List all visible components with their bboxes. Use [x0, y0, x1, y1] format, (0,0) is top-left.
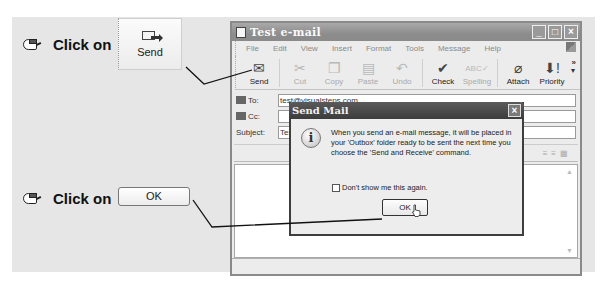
maximize-button[interactable]: □ — [548, 25, 562, 39]
send-callout-label: Send — [137, 46, 163, 58]
hand-cursor-icon — [412, 204, 421, 217]
menu-view[interactable]: View — [301, 44, 318, 53]
menu-format[interactable]: Format — [366, 44, 391, 53]
cc-label: Cc: — [248, 112, 278, 121]
priority-dropdown-arrow[interactable]: ▾ — [571, 66, 575, 75]
menu-file[interactable]: File — [246, 44, 259, 53]
dialog-title: Send Mail — [292, 105, 348, 116]
ok-callout-button: OK — [118, 187, 190, 206]
minimize-button[interactable]: _ — [532, 25, 546, 39]
mouse-icon — [23, 193, 41, 204]
send-mail-dialog: Send Mail × i When you send an e-mail me… — [289, 102, 524, 236]
checkbox-box[interactable] — [332, 184, 340, 192]
dialog-message: When you send an e-mail message, it will… — [331, 128, 521, 158]
toolbar: ✉ Send ✂ Cut ❐ Copy ▤ Paste ↶ Undo ✔ Che… — [235, 56, 580, 90]
menu-help[interactable]: Help — [484, 44, 500, 53]
scroll-down-arrow[interactable]: ▼ — [566, 247, 573, 254]
info-icon: i — [301, 128, 321, 148]
checkbox-label: Don't show me this again. — [342, 183, 428, 192]
toolbar-paste-button[interactable]: ▤ Paste — [351, 60, 385, 89]
instruction-text: Click on — [53, 190, 111, 207]
address-book-icon[interactable] — [236, 112, 246, 120]
toolbar-priority-button[interactable]: ⬇! Priority — [535, 60, 569, 89]
spelling-icon: ABC✓ — [465, 60, 488, 77]
undo-icon: ↶ — [396, 60, 408, 77]
check-names-icon: ✔ — [437, 60, 449, 77]
instruction-text: Click on — [53, 36, 111, 53]
toolbar-undo-button[interactable]: ↶ Undo — [385, 60, 419, 89]
toolbar-separator — [497, 59, 498, 87]
title-bar[interactable]: Test e-mail _ □ × — [232, 23, 580, 41]
window-title: Test e-mail — [250, 26, 321, 39]
scissors-icon: ✂ — [294, 60, 306, 77]
toolbar-overflow-chevron[interactable]: » — [572, 58, 576, 67]
paste-icon: ▤ — [362, 60, 375, 77]
toolbar-attach-button[interactable]: ⌀ Attach — [501, 60, 535, 89]
send-callout-button: Send — [118, 18, 182, 70]
menu-tools[interactable]: Tools — [405, 44, 424, 53]
toolbar-separator — [422, 59, 423, 87]
dialog-close-button[interactable]: × — [508, 104, 521, 117]
menu-message[interactable]: Message — [438, 44, 470, 53]
scroll-up-arrow[interactable]: ▲ — [566, 168, 573, 175]
mouse-icon — [23, 39, 41, 50]
menu-bar: File Edit View Insert Format Tools Messa… — [235, 41, 580, 56]
dialog-title-bar[interactable]: Send Mail × — [289, 102, 524, 119]
toolbar-separator — [279, 59, 280, 87]
envelope-icon — [236, 27, 246, 38]
toolbar-cut-button[interactable]: ✂ Cut — [283, 60, 317, 89]
instruction-step-2: Click on — [23, 190, 111, 207]
close-button[interactable]: × — [564, 25, 578, 39]
toolbar-spelling-button[interactable]: ABC✓ Spelling — [460, 60, 494, 89]
subject-label: Subject: — [236, 128, 278, 137]
dialog-ok-button[interactable]: OK — [382, 199, 428, 216]
menu-insert[interactable]: Insert — [332, 44, 352, 53]
send-icon — [142, 30, 158, 42]
windows-logo-icon — [566, 42, 576, 52]
toolbar-copy-button[interactable]: ❐ Copy — [317, 60, 351, 89]
instruction-step-1: Click on — [23, 36, 111, 53]
status-bar — [232, 258, 580, 274]
toolbar-check-button[interactable]: ✔ Check — [426, 60, 460, 89]
toolbar-send-button[interactable]: ✉ Send — [242, 60, 276, 89]
priority-icon: ⬇! — [544, 60, 560, 77]
paperclip-icon: ⌀ — [514, 60, 522, 77]
alignment-icons[interactable]: ≡≡▦ — [543, 149, 572, 158]
address-book-icon[interactable] — [236, 96, 246, 104]
send-icon: ✉ — [253, 60, 265, 77]
to-label: To: — [248, 96, 278, 105]
dont-show-again-checkbox[interactable]: Don't show me this again. — [332, 183, 428, 192]
menu-edit[interactable]: Edit — [273, 44, 287, 53]
copy-icon: ❐ — [328, 60, 341, 77]
